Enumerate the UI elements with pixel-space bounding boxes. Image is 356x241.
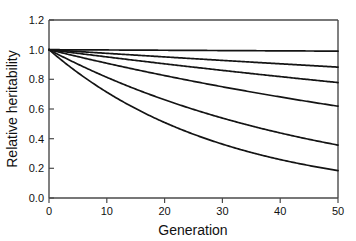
y-tick-label-1-2: 1.2 (29, 14, 44, 26)
y-tick-label-0-2: 0.2 (29, 162, 44, 174)
x-tick-label-50: 50 (332, 205, 344, 217)
figure-background (0, 0, 356, 241)
x-tick-label-10: 10 (101, 205, 113, 217)
y-tick-label-0-4: 0.4 (29, 133, 44, 145)
x-axis-title: Generation (158, 222, 227, 238)
y-tick-label-0-6: 0.6 (29, 103, 44, 115)
y-axis-title: Relative heritability (4, 50, 20, 168)
chart-figure: 1.2 1.0 0.8 0.6 0.4 0.2 0.0 0 10 20 30 4… (0, 0, 356, 241)
x-tick-label-30: 30 (216, 205, 228, 217)
y-tick-label-1-0: 1.0 (29, 44, 44, 56)
x-tick-label-40: 40 (274, 205, 286, 217)
x-tick-label-0: 0 (46, 205, 52, 217)
y-tick-label-0-0: 0.0 (29, 192, 44, 204)
y-tick-label-0-8: 0.8 (29, 73, 44, 85)
x-tick-label-20: 20 (158, 205, 170, 217)
